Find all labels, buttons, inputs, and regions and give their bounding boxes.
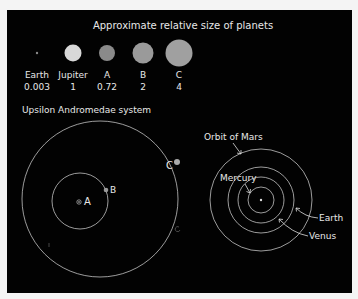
star-upsilon [78,201,80,203]
diagram-canvas: Approximate relative size of planets Ear… [0,0,358,299]
jupiter-value: 1 [70,82,76,92]
sun [260,199,262,201]
orbit-b [52,173,108,229]
planet-c [174,159,180,165]
planet-b-label: B [140,70,146,80]
size-chart-title: Approximate relative size of planets [93,20,273,31]
label-mercury: Mercury [220,173,257,183]
planet-c-size-dot [166,40,193,67]
planet-a-size-dot [99,45,115,61]
planet-a-label: A [104,70,111,80]
jupiter-label: Jupiter [57,70,88,80]
earth-label: Earth [25,70,49,80]
arrow-earth [296,208,318,218]
label-mars: Orbit of Mars [204,132,263,142]
label-b: B [110,185,116,195]
planet-b-size-dot [133,43,154,64]
earth-size-dot [36,52,38,54]
jupiter-size-dot [65,45,82,62]
planet-b-value: 2 [140,82,146,92]
label-a: A [84,196,91,207]
faint-mark [175,227,180,232]
upsilon-title: Upsilon Andromedae system [22,105,151,115]
orbit-c [22,121,178,277]
earth-value: 0.003 [24,82,50,92]
label-venus: Venus [309,231,336,241]
planet-b [104,188,109,193]
planet-a-value: 0.72 [97,82,117,92]
planet-c-value: 4 [176,82,182,92]
label-earth: Earth [319,213,343,223]
arrow-mars [233,143,241,154]
label-c: C [166,160,173,171]
planet-c-label: C [176,70,182,80]
